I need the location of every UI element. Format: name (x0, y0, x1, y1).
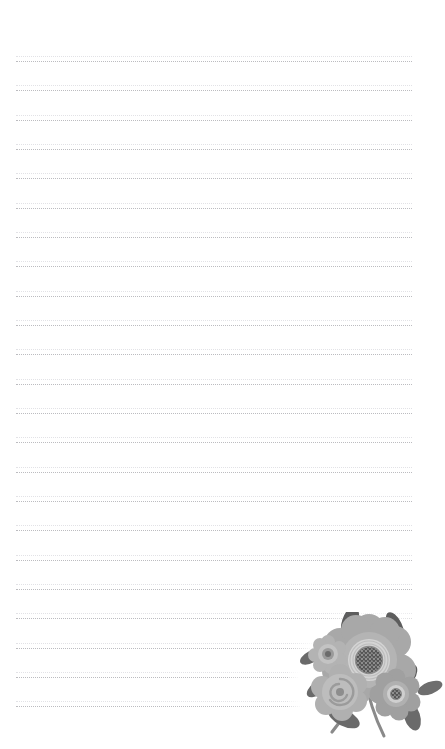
rule-line-ghost (16, 525, 412, 526)
rule-line (16, 472, 412, 473)
rule-line (16, 560, 412, 561)
rule-line (16, 296, 412, 297)
rule-line-ghost (16, 408, 412, 409)
rule-line (16, 178, 412, 179)
rule-line (16, 384, 412, 385)
rule-line-ghost (16, 643, 412, 644)
rule-line (16, 90, 412, 91)
rule-line (16, 618, 412, 619)
rule-line (16, 325, 412, 326)
rule-line (16, 149, 412, 150)
notepad-page (0, 0, 445, 749)
rule-line-ghost (16, 555, 412, 556)
rule-line (16, 266, 412, 267)
rule-line (16, 677, 412, 678)
rule-line-ghost (16, 85, 412, 86)
rule-line-ghost (16, 349, 412, 350)
rule-line (16, 706, 412, 707)
rule-line-ghost (16, 437, 412, 438)
rule-line-ghost (16, 320, 412, 321)
rule-line (16, 648, 412, 649)
rule-line-ghost (16, 291, 412, 292)
rule-line-ghost (16, 672, 412, 673)
rule-line (16, 61, 412, 62)
rule-line (16, 442, 412, 443)
rule-line (16, 237, 412, 238)
rule-line (16, 501, 412, 502)
rule-line-ghost (16, 261, 412, 262)
rule-line-ghost (16, 232, 412, 233)
rule-line-ghost (16, 144, 412, 145)
rule-line-ghost (16, 467, 412, 468)
rule-line (16, 530, 412, 531)
rule-line-ghost (16, 379, 412, 380)
rule-line (16, 208, 412, 209)
rule-line (16, 354, 412, 355)
rule-line-ghost (16, 203, 412, 204)
rule-line-ghost (16, 115, 412, 116)
rule-line-ghost (16, 56, 412, 57)
rule-line (16, 120, 412, 121)
rule-line-ghost (16, 613, 412, 614)
rule-line-ghost (16, 496, 412, 497)
rule-line (16, 589, 412, 590)
rule-line-ghost (16, 701, 412, 702)
rule-line-ghost (16, 173, 412, 174)
rule-line (16, 413, 412, 414)
ruled-lines-layer (0, 0, 445, 749)
rule-line-ghost (16, 584, 412, 585)
